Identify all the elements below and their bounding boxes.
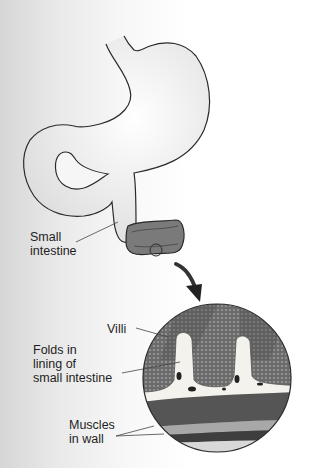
label-villi: Villi [107,322,126,336]
leader-small-intestine [76,222,118,242]
label-muscles: Muscles in wall [69,418,115,446]
label-small-intestine: Small intestine [30,230,77,258]
magnified-wall-view [140,300,300,460]
intestine-cross-section [126,220,184,256]
magnify-arrow-icon [176,264,202,302]
label-folds: Folds in lining of small intestine [33,343,112,385]
stomach [24,36,210,242]
